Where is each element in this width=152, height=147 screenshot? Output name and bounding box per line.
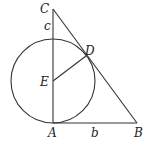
label-b-point: B	[133, 126, 143, 140]
label-e-point: E	[39, 75, 49, 89]
label-b-segment: b	[91, 126, 99, 140]
segment-ed	[53, 56, 86, 81]
label-d-point: D	[84, 44, 95, 58]
label-a-point: A	[47, 126, 57, 140]
label-c-segment: c	[44, 19, 51, 33]
segment-cb	[53, 9, 137, 123]
label-c-point: C	[40, 2, 49, 16]
geometry-diagram: C c D E A b B	[0, 0, 152, 147]
